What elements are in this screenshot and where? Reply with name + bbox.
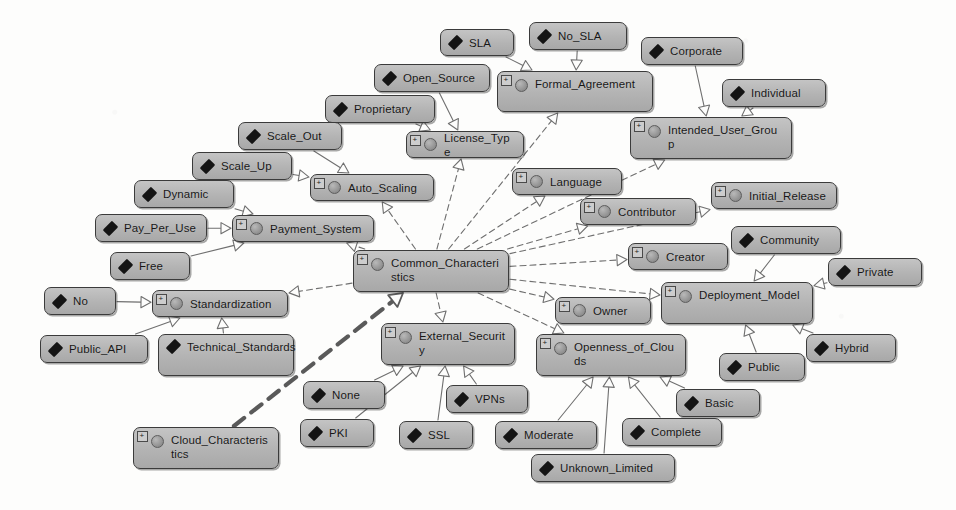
- expander-icon[interactable]: +: [665, 286, 676, 297]
- node-label: Public_API: [69, 342, 126, 356]
- node-label: License_Type: [444, 131, 515, 159]
- node-corporate[interactable]: Corporate: [641, 37, 743, 65]
- class-circle-icon: [729, 189, 742, 202]
- node-label: Payment_System: [270, 222, 362, 236]
- instance-diamond-icon: [539, 460, 555, 476]
- instance-diamond-icon: [454, 391, 470, 407]
- expander-icon[interactable]: +: [314, 178, 325, 189]
- class-circle-icon: [648, 125, 661, 138]
- instance-diamond-icon: [166, 339, 182, 355]
- node-external_security[interactable]: +External_Security: [381, 323, 515, 365]
- expander-icon[interactable]: +: [584, 202, 595, 213]
- edge-scale_out-to-auto_scaling: [314, 151, 349, 173]
- expander-icon[interactable]: +: [501, 75, 512, 86]
- expander-icon[interactable]: +: [559, 301, 570, 312]
- edge-common_characteristics-to-external_security: [435, 293, 446, 322]
- node-creator[interactable]: +Creator: [628, 243, 728, 270]
- node-hybrid[interactable]: Hybrid: [806, 334, 896, 362]
- node-label: Free: [139, 259, 163, 273]
- node-initial_release[interactable]: +Initial_Release: [711, 182, 837, 209]
- node-label: Scale_Out: [267, 129, 322, 143]
- node-complete[interactable]: Complete: [622, 418, 722, 446]
- node-label: Language: [550, 175, 602, 189]
- node-formal_agreement[interactable]: +Formal_Agreement: [497, 71, 653, 112]
- node-openness_of_clouds[interactable]: +Openness_of_Clouds: [536, 334, 686, 376]
- node-common_characteristics[interactable]: +Common_Characteristics: [353, 250, 509, 292]
- node-scale_up[interactable]: Scale_Up: [192, 152, 292, 180]
- node-community[interactable]: Community: [731, 226, 841, 254]
- node-no_sla[interactable]: No_SLA: [529, 22, 627, 50]
- edge-open_source-to-license_type: [439, 93, 458, 130]
- node-standardization[interactable]: +Standardization: [152, 290, 288, 317]
- node-label: Technical_Standards: [187, 340, 296, 354]
- edge-individual-to-intended_user_group: [742, 106, 753, 116]
- node-proprietary[interactable]: Proprietary: [325, 95, 435, 123]
- expander-icon[interactable]: +: [410, 135, 421, 146]
- node-free[interactable]: Free: [110, 252, 190, 280]
- node-ssl[interactable]: SSL: [399, 421, 473, 449]
- edge-moderate-to-openness_of_clouds: [558, 377, 593, 420]
- edge-private-to-deployment_model: [814, 278, 827, 289]
- expander-icon[interactable]: +: [156, 294, 167, 305]
- node-basic[interactable]: Basic: [676, 389, 760, 417]
- edge-no-to-standardization: [117, 296, 151, 307]
- node-private[interactable]: Private: [828, 258, 922, 286]
- node-public_api[interactable]: Public_API: [40, 335, 148, 363]
- instance-diamond-icon: [407, 427, 423, 443]
- node-public[interactable]: Public: [719, 353, 805, 381]
- instance-diamond-icon: [448, 35, 464, 51]
- instance-diamond-icon: [684, 395, 700, 411]
- node-unknown_limited[interactable]: Unknown_Limited: [531, 454, 675, 482]
- node-label: Complete: [651, 425, 701, 439]
- node-label: Intended_User_Group: [668, 123, 783, 151]
- node-intended_user_group[interactable]: +Intended_User_Group: [630, 117, 792, 159]
- node-label: Deployment_Model: [699, 288, 800, 302]
- class-circle-icon: [371, 258, 384, 271]
- node-vpns[interactable]: VPNs: [446, 385, 528, 413]
- node-label: Auto_Scaling: [348, 181, 417, 195]
- expander-icon[interactable]: +: [516, 172, 527, 183]
- edge-public_api-to-standardization: [136, 316, 180, 334]
- expander-icon[interactable]: +: [137, 431, 148, 442]
- node-cloud_characteristics[interactable]: +Cloud_Characteristics: [133, 427, 279, 469]
- node-owner[interactable]: +Owner: [555, 297, 651, 324]
- node-none[interactable]: None: [303, 381, 385, 409]
- node-label: Initial_Release: [749, 189, 826, 203]
- node-individual[interactable]: Individual: [722, 79, 826, 107]
- node-license_type[interactable]: +License_Type: [406, 131, 524, 158]
- node-technical_standards[interactable]: Technical_Standards: [158, 334, 294, 376]
- instance-diamond-icon: [503, 427, 519, 443]
- node-contributor[interactable]: +Contributor: [580, 198, 696, 225]
- instance-diamond-icon: [836, 264, 852, 280]
- expander-icon[interactable]: +: [236, 219, 247, 230]
- instance-diamond-icon: [333, 101, 349, 117]
- expander-icon[interactable]: +: [540, 338, 551, 349]
- expander-icon[interactable]: +: [634, 121, 645, 132]
- node-payment_system[interactable]: +Payment_System: [232, 215, 374, 242]
- expander-icon[interactable]: +: [385, 327, 396, 338]
- edge-public-to-deployment_model: [744, 325, 756, 352]
- instance-diamond-icon: [246, 128, 262, 144]
- node-dynamic[interactable]: Dynamic: [134, 180, 234, 208]
- node-pay_per_use[interactable]: Pay_Per_Use: [95, 214, 207, 242]
- node-label: Unknown_Limited: [560, 461, 653, 475]
- expander-icon[interactable]: +: [715, 186, 726, 197]
- diagram-canvas[interactable]: SLANo_SLACorporateOpen_Source+Formal_Agr…: [0, 0, 956, 510]
- expander-icon[interactable]: +: [357, 254, 368, 265]
- expander-icon[interactable]: +: [632, 247, 643, 258]
- node-moderate[interactable]: Moderate: [495, 421, 597, 449]
- edge-unknown_limited-to-openness_of_clouds: [603, 377, 614, 453]
- node-pki[interactable]: PKI: [300, 419, 374, 447]
- node-label: Private: [857, 265, 894, 279]
- class-circle-icon: [554, 342, 567, 355]
- node-sla[interactable]: SLA: [440, 29, 514, 56]
- node-label: Hybrid: [835, 341, 869, 355]
- node-language[interactable]: +Language: [512, 168, 622, 195]
- node-label: No_SLA: [558, 29, 601, 43]
- node-scale_out[interactable]: Scale_Out: [238, 122, 342, 150]
- node-deployment_model[interactable]: +Deployment_Model: [661, 282, 813, 324]
- node-auto_scaling[interactable]: +Auto_Scaling: [310, 174, 434, 201]
- node-open_source[interactable]: Open_Source: [374, 64, 490, 92]
- node-no[interactable]: No: [44, 287, 116, 315]
- instance-diamond-icon: [118, 258, 134, 274]
